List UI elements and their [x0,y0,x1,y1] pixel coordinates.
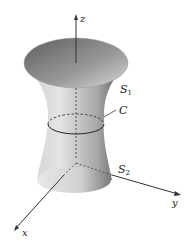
y-axis-arrow-icon [174,191,181,196]
z-label: z [79,13,86,24]
c-leader-line [104,110,116,117]
c-label: C [119,104,128,117]
y-axis [112,175,178,194]
s1-label: S1 [120,83,132,97]
x-label: x [22,227,28,238]
hyperboloid-diagram: z y x S1 C S2 [0,0,191,243]
s2-label: S2 [118,163,130,177]
z-axis-arrow-icon [74,14,78,20]
y-label: y [171,197,178,208]
